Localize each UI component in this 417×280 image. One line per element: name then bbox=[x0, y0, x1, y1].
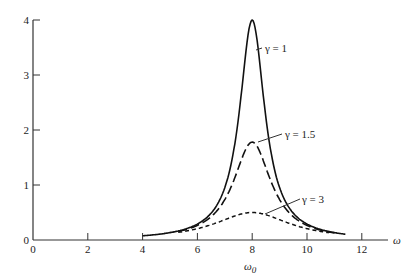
x-tick-label: 4 bbox=[140, 243, 146, 255]
y-tick-label: 3 bbox=[24, 69, 30, 81]
y-tick-label: 2 bbox=[24, 124, 30, 136]
resonance-chart: 01234 024681012 ω ω0 γ = 1 γ = 1.5 γ = 3 bbox=[0, 0, 417, 280]
x-tick-label: 2 bbox=[85, 243, 91, 255]
x-tick-label: 0 bbox=[30, 243, 36, 255]
annotation-leader-gamma-3 bbox=[265, 199, 300, 214]
y-tick-label: 0 bbox=[24, 234, 30, 246]
x-tick-label: 6 bbox=[195, 243, 201, 255]
y-tick-label: 4 bbox=[24, 14, 30, 26]
omega0-label: ω0 bbox=[244, 260, 257, 275]
x-tick-label: 8 bbox=[249, 243, 255, 255]
x-ticks: 024681012 bbox=[30, 233, 367, 255]
annotation-leader-gamma-1-5 bbox=[258, 134, 282, 142]
y-tick-label: 1 bbox=[24, 179, 30, 191]
x-axis-label: ω bbox=[393, 234, 401, 246]
annotation-gamma-1-5: γ = 1.5 bbox=[284, 128, 316, 140]
x-tick-label: 12 bbox=[356, 243, 367, 255]
annotation-gamma-1: γ = 1 bbox=[264, 42, 287, 54]
x-tick-label: 10 bbox=[302, 243, 314, 255]
annotation-gamma-3: γ = 3 bbox=[301, 193, 325, 205]
curve-gamma-1-5 bbox=[178, 142, 334, 233]
y-ticks: 01234 bbox=[24, 14, 41, 246]
